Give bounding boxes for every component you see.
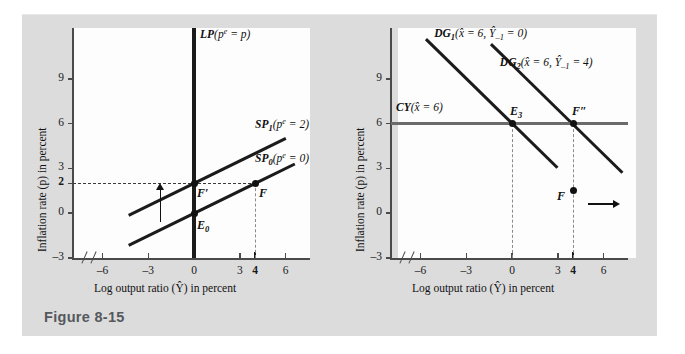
point-F — [252, 180, 259, 187]
x-axis-title: Log output ratio (Ŷ) in percent — [94, 282, 236, 294]
point-E0 — [191, 210, 198, 217]
point-label-E0: E0 — [197, 218, 209, 234]
curve-label-SP0: SP0(pe = 0) — [255, 151, 309, 167]
point-label-F: F — [259, 186, 267, 201]
y-tick-label: 9 — [356, 71, 382, 83]
y-tick-label: 6 — [38, 116, 64, 128]
demand-growth-panel: 9630–3–6–30346Log output ratio (Ŷ) in pe… — [340, 14, 658, 314]
x-tick-label: –3 — [135, 264, 161, 276]
y-axis-line — [390, 28, 392, 259]
point-label-F: F — [557, 189, 565, 204]
x-tick-label: 6 — [273, 264, 299, 276]
dg-shift-right-arrow — [588, 203, 614, 205]
x-tick-label: 0 — [181, 264, 207, 276]
figure-caption: Figure 8-15 — [44, 309, 125, 325]
sp-shift-up-arrow-head — [156, 183, 164, 190]
y-tick — [386, 78, 391, 80]
y-axis-title: Inflation rate (p) in percent — [354, 127, 366, 252]
point-F — [570, 187, 577, 194]
output-0-guide — [512, 124, 513, 258]
dg-shift-right-arrow-head — [613, 200, 620, 208]
y-tick — [386, 212, 391, 214]
x-tick-label: 4 — [242, 264, 268, 276]
curve-label-CY: CY(x̂ = 6) — [396, 101, 443, 113]
inflation-2-guide — [73, 183, 256, 184]
x-axis-line — [390, 258, 628, 260]
y-tick — [386, 257, 391, 259]
x-axis-title: Log output ratio (Ŷ) in percent — [412, 282, 554, 294]
x-tick-label: –6 — [408, 264, 434, 276]
x-tick — [603, 253, 605, 258]
y-tick — [68, 212, 73, 214]
x-tick — [285, 253, 287, 258]
x-tick-label: 0 — [499, 264, 525, 276]
y-axis-title: Inflation rate (p) in percent — [36, 127, 48, 252]
x-tick — [148, 253, 150, 258]
x-tick — [420, 253, 422, 258]
x-axis-line — [72, 258, 310, 260]
y-tick — [386, 168, 391, 170]
point-label-F-prime: F′ — [197, 186, 208, 201]
x-tick — [557, 253, 559, 258]
point-label-F-double-prime: F″ — [572, 104, 587, 119]
curve-label-DG1: DG1(x̂ = 6, Ŷ–1 = 0) — [434, 27, 527, 42]
x-tick-label: 6 — [591, 264, 617, 276]
x-tick — [102, 253, 104, 258]
x-tick — [239, 253, 241, 258]
point-label-E3: E3 — [510, 104, 522, 120]
x-tick-label: –3 — [453, 264, 479, 276]
y-tick — [68, 123, 73, 125]
y-tick-label: 6 — [356, 116, 382, 128]
curve-label-LP: LP(pe = p) — [200, 27, 250, 40]
curve-label-SP1: SP1(pe = 2) — [255, 117, 309, 133]
figure-8-15: 96320–3–6–30346Log output ratio (Ŷ) in p… — [0, 0, 685, 354]
curve-label-DG2: DG2(x̂ = 6, Ŷ–1 = 4) — [500, 56, 593, 71]
x-tick — [466, 253, 468, 258]
curve-LP — [192, 28, 195, 258]
y-tick — [68, 168, 73, 170]
point-F-double-prime — [570, 120, 577, 127]
y-tick — [68, 78, 73, 80]
phillips-curve-panel: 96320–3–6–30346Log output ratio (Ŷ) in p… — [22, 14, 340, 314]
x-tick-label: –6 — [90, 264, 116, 276]
y-tick — [68, 257, 73, 259]
x-tick-label: 4 — [560, 264, 586, 276]
sp-shift-up-arrow — [160, 189, 162, 222]
output-4-guide — [255, 183, 256, 258]
y-axis-line — [72, 28, 74, 259]
y-tick-label: 9 — [38, 71, 64, 83]
point-E3 — [509, 120, 516, 127]
